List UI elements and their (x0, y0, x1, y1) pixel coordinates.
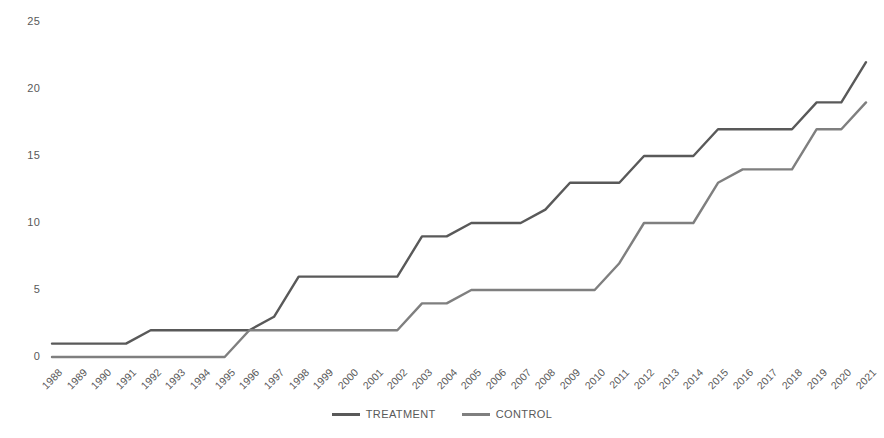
y-axis-tick-5: 5 (6, 283, 40, 295)
legend-label: TREATMENT (366, 408, 436, 420)
y-axis-tick-10: 10 (6, 216, 40, 228)
legend-entry-control[interactable]: CONTROL (462, 408, 553, 420)
legend-label: CONTROL (496, 408, 553, 420)
legend-swatch-icon (462, 413, 490, 416)
legend-entry-treatment[interactable]: TREATMENT (332, 408, 436, 420)
y-axis-tick-15: 15 (6, 149, 40, 161)
y-axis-tick-20: 20 (6, 82, 40, 94)
series-layer (52, 62, 866, 357)
line-chart: 0510152025 19881989199019911992199319941… (0, 0, 884, 438)
series-line-treatment (52, 62, 866, 343)
y-axis-tick-0: 0 (6, 350, 40, 362)
legend-swatch-icon (332, 413, 360, 416)
chart-legend: TREATMENTCONTROL (0, 408, 884, 420)
y-axis-tick-25: 25 (6, 15, 40, 27)
